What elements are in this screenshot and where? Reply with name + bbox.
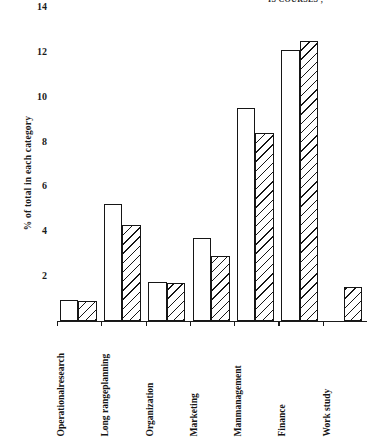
bar-open: [148, 282, 167, 321]
bar-chart: IS COURSES , % of total in each category…: [0, 0, 373, 438]
bar-open: [60, 300, 79, 321]
y-tick-label: 6: [21, 180, 47, 191]
category-label-text: Organization: [144, 382, 155, 436]
x-tick: [323, 322, 324, 326]
bar-open: [237, 108, 256, 321]
plot-area: [57, 6, 367, 322]
bar-hatched: [167, 283, 186, 321]
category-label-text: Manmanagement: [233, 365, 244, 436]
x-tick: [278, 322, 279, 326]
y-tick-label: 2: [21, 270, 47, 281]
y-tick-label: 12: [21, 46, 47, 57]
bar-open: [281, 50, 300, 321]
bar-hatched: [211, 256, 230, 321]
header-note: IS COURSES ,: [268, 0, 373, 4]
category-label-text: Long rangeplanning: [100, 353, 111, 436]
x-tick: [57, 322, 58, 326]
category-label-text: Marketing: [188, 393, 199, 436]
bar-hatched: [344, 287, 363, 321]
x-tick: [190, 322, 191, 326]
x-tick: [234, 322, 235, 326]
y-tick-label: 14: [21, 1, 47, 12]
bar-open: [193, 238, 212, 321]
y-tick-label: 10: [21, 91, 47, 102]
category-label-text: Finance: [277, 404, 288, 436]
y-tick-label: 8: [21, 136, 47, 147]
x-tick: [146, 322, 147, 326]
y-tick-label: 4: [21, 225, 47, 236]
bar-open: [104, 204, 123, 321]
category-label-text: Work study: [321, 388, 332, 436]
category-label-text: Operationalresearch: [56, 352, 67, 436]
bar-hatched: [122, 225, 141, 321]
bar-hatched: [255, 133, 274, 321]
bar-hatched: [300, 41, 319, 321]
x-tick: [101, 322, 102, 326]
bar-hatched: [78, 301, 97, 321]
